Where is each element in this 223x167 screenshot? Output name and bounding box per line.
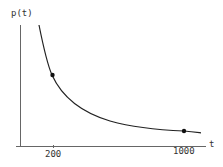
- data-point-1000: [182, 129, 186, 133]
- chart-area: p(t) t 200 1000: [0, 0, 223, 167]
- y-axis-label: p(t): [11, 9, 33, 18]
- x-axis-label: t: [209, 140, 214, 149]
- chart-svg: [0, 0, 223, 167]
- tick-label-200: 200: [45, 150, 61, 159]
- data-point-200: [50, 73, 54, 77]
- curve-p-of-t: [39, 25, 201, 133]
- tick-label-1000: 1000: [173, 147, 195, 156]
